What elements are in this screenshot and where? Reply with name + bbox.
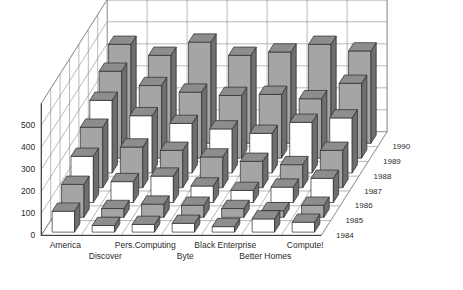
bar-top-face: [349, 43, 377, 51]
bar-top-face: [139, 77, 167, 85]
bar-top-face: [309, 36, 337, 44]
bar-side-face: [202, 84, 207, 158]
bar-top-face: [250, 125, 278, 133]
bar-top-face: [99, 63, 127, 71]
bar-1985-pers-computing: [142, 196, 170, 217]
bar-1984-compute-: [292, 214, 320, 232]
x-category-label-black-enterprise: Black Enterprise: [194, 240, 256, 250]
bar-top-face: [52, 203, 80, 211]
bar-side-face: [93, 148, 98, 202]
bar-top-face: [222, 200, 250, 208]
bar-top-face: [219, 87, 247, 95]
bar-1984-pers-computing: [132, 216, 160, 232]
bar-top-face: [229, 47, 257, 55]
bar-top-face: [130, 107, 158, 115]
bar-front-face: [292, 222, 314, 232]
bar-front-face: [142, 204, 164, 217]
bar-top-face: [182, 197, 210, 205]
depth-label-1984: 1984: [336, 231, 354, 240]
bar-chart-3d: 0100200300400500 AmericaDiscoverPers.Com…: [0, 0, 463, 290]
x-category-label-discover: Discover: [89, 251, 122, 261]
bar-top-face: [102, 200, 130, 208]
y-tick-label-300: 300: [21, 164, 35, 174]
x-category-label-pers-computing: Pers.Computing: [115, 240, 176, 250]
bar-front-face: [252, 219, 274, 232]
bar-top-face: [170, 115, 198, 123]
bar-1985-black-enterprise: [222, 200, 250, 217]
bar-front-face: [212, 227, 234, 233]
bar-front-face: [111, 182, 133, 203]
bar-top-face: [151, 168, 179, 176]
x-category-label-america: America: [50, 240, 81, 250]
bar-front-face: [92, 226, 114, 233]
x-category-label-compute-: Compute!: [287, 240, 324, 250]
bar-front-face: [102, 209, 124, 218]
bar-top-face: [120, 139, 148, 147]
bar-1985-byte: [182, 197, 210, 217]
bar-1984-better-homes: [252, 211, 280, 232]
bar-front-face: [132, 224, 154, 232]
bar-side-face: [232, 121, 237, 173]
y-tick-label-100: 100: [21, 208, 35, 218]
bar-top-face: [172, 215, 200, 223]
bar-top-face: [90, 92, 118, 100]
bar-top-face: [262, 202, 290, 210]
bar-side-face: [242, 87, 247, 158]
bar-top-face: [149, 47, 177, 55]
bar-side-face: [103, 119, 108, 188]
bar-1986-discover: [111, 173, 139, 202]
bar-side-face: [152, 107, 157, 172]
bar-top-face: [191, 178, 219, 186]
bar-top-face: [210, 121, 238, 129]
y-tick-label-400: 400: [21, 142, 35, 152]
y-tick-label-200: 200: [21, 186, 35, 196]
depth-label-1990: 1990: [392, 142, 410, 151]
bar-front-face: [172, 223, 194, 232]
y-tick-label-0: 0: [31, 230, 36, 240]
bar-1985-discover: [102, 200, 130, 217]
bar-side-face: [282, 86, 287, 158]
bar-1984-america: [52, 203, 80, 232]
bar-top-face: [109, 36, 137, 44]
x-category-label-better-homes: Better Homes: [239, 251, 291, 261]
depth-label-1988: 1988: [374, 172, 392, 181]
y-tick-label-500: 500: [21, 120, 35, 130]
bar-1984-byte: [172, 215, 200, 232]
bar-front-face: [222, 209, 244, 218]
bar-side-face: [371, 43, 376, 144]
bar-1986-better-homes: [271, 179, 299, 203]
bar-1986-black-enterprise: [231, 182, 259, 202]
bar-side-face: [362, 75, 367, 158]
y-axis-labels: 0100200300400500: [21, 120, 35, 240]
depth-label-1986: 1986: [355, 201, 373, 210]
bar-top-face: [339, 75, 367, 83]
bar-top-face: [71, 148, 99, 156]
bar-top-face: [231, 182, 259, 190]
bar-front-face: [52, 211, 74, 232]
bar-top-face: [200, 149, 228, 157]
bar-side-face: [352, 110, 357, 173]
bar-top-face: [92, 217, 120, 225]
bar-top-face: [189, 34, 217, 42]
bar-top-face: [62, 176, 90, 184]
bar-top-face: [179, 84, 207, 92]
bar-top-face: [330, 110, 358, 118]
x-category-label-byte: Byte: [177, 251, 194, 261]
bar-top-face: [142, 196, 170, 204]
bar-top-face: [160, 142, 188, 150]
bar-side-face: [192, 115, 197, 173]
bar-side-face: [112, 92, 117, 173]
bar-1984-black-enterprise: [212, 218, 240, 232]
bar-top-face: [269, 44, 297, 52]
depth-label-1987: 1987: [364, 187, 382, 196]
bar-top-face: [259, 86, 287, 94]
bar-top-face: [132, 216, 160, 224]
depth-label-1989: 1989: [383, 157, 401, 166]
chart-container: 0100200300400500 AmericaDiscoverPers.Com…: [0, 0, 463, 290]
bar-top-face: [240, 153, 268, 161]
depth-label-1985: 1985: [345, 216, 363, 225]
bar-top-face: [80, 119, 108, 127]
bar-top-face: [290, 114, 318, 122]
bar-top-face: [311, 170, 339, 178]
bar-side-face: [312, 114, 317, 173]
